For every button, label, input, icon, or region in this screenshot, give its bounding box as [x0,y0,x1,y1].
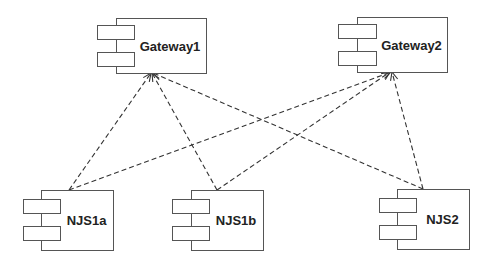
dependency-njs2-to-gateway1[interactable] [153,73,423,189]
component-njs1b[interactable]: NJS1b [173,191,264,251]
component-tab-icon [98,53,135,67]
component-gateway1[interactable]: Gateway1 [98,19,207,74]
component-tab-icon [173,227,210,241]
arrowhead-icon [143,73,151,82]
component-label: Gateway1 [140,39,201,54]
component-tab-icon [24,200,61,214]
component-label: NJS1a [67,213,108,228]
component-tab-icon [98,26,135,40]
component-tab-icon [380,199,417,213]
dependency-njs1b-to-gateway1[interactable] [152,73,217,190]
component-njs1a[interactable]: NJS1a [24,191,114,251]
component-tab-icon [339,25,377,39]
component-label: NJS2 [426,212,459,227]
component-tab-icon [380,226,417,240]
dependency-njs1b-to-gateway2[interactable] [217,72,390,190]
dependency-njs1a-to-gateway1[interactable] [69,73,151,190]
dependency-njs2-to-gateway2[interactable] [391,72,423,189]
component-label: Gateway2 [381,38,442,53]
component-tab-icon [173,200,210,214]
dependency-lines [69,71,423,190]
component-diagram-canvas: Gateway1Gateway2NJS1aNJS1bNJS2 [0,0,488,256]
components: Gateway1Gateway2NJS1aNJS1bNJS2 [24,18,470,251]
component-tab-icon [24,227,61,241]
arrowhead-icon [381,72,390,80]
component-tab-icon [339,52,377,66]
component-label: NJS1b [216,213,257,228]
component-njs2[interactable]: NJS2 [380,190,470,250]
dependency-njs1a-to-gateway2[interactable] [69,71,391,190]
component-gateway2[interactable]: Gateway2 [339,18,448,73]
